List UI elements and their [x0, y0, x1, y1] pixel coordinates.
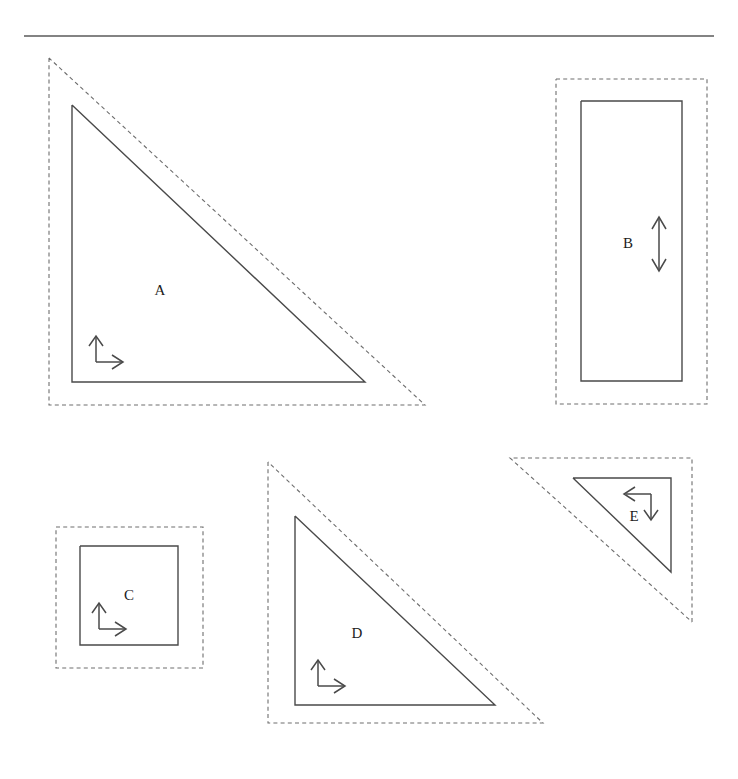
shape-group-a[interactable]: A: [49, 58, 425, 405]
shape-group-b[interactable]: B: [556, 79, 707, 404]
shape-c-axis-marker: [92, 603, 126, 636]
shape-a-outline: [72, 105, 365, 382]
shape-c-label: C: [124, 587, 134, 603]
shape-a-label: A: [155, 282, 166, 298]
shape-e-dashed-boundary: [510, 458, 692, 622]
shape-d-axis-marker: [311, 660, 345, 693]
shape-a-dashed-boundary: [49, 58, 425, 405]
shape-d-label: D: [352, 625, 363, 641]
shape-group-c[interactable]: C: [56, 527, 203, 668]
shape-b-axis-marker: [652, 217, 666, 271]
shape-group-d[interactable]: D: [268, 462, 543, 723]
shape-d-outline: [295, 516, 495, 705]
shape-b-label: B: [623, 235, 633, 251]
shape-d-dashed-boundary: [268, 462, 543, 723]
shape-e-label: E: [629, 508, 638, 524]
shape-e-outline: [573, 478, 671, 572]
shape-group-e[interactable]: E: [510, 458, 692, 622]
shape-a-axis-marker: [89, 336, 123, 369]
figure-canvas: A B C D: [0, 0, 738, 779]
